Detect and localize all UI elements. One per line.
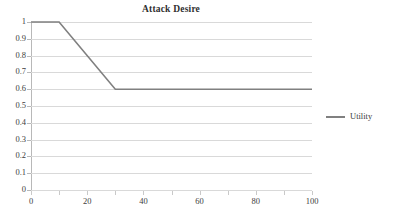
y-axis-tick-label-wrap: 0.5 <box>0 101 26 111</box>
y-axis-tick-label-wrap: 1 <box>0 17 26 27</box>
y-axis-tick-label: 0.1 <box>2 168 26 177</box>
x-axis-tick-label: 40 <box>128 196 158 206</box>
y-axis-tick-label-wrap: 0 <box>0 185 26 195</box>
x-axis-tick <box>31 191 32 195</box>
x-axis-tick-label: 80 <box>241 196 271 206</box>
x-axis-tick <box>87 191 88 195</box>
x-axis-tick-label: 60 <box>185 196 215 206</box>
x-axis-tick <box>59 191 60 195</box>
chart-container: Attack Desire 00.10.20.30.40.50.60.70.80… <box>0 0 401 223</box>
y-axis-tick-label: 1 <box>2 17 26 26</box>
y-axis-tick-label-wrap: 0.8 <box>0 51 26 61</box>
x-axis-tick-label: 100 <box>297 196 327 206</box>
y-axis-tick-label: 0.4 <box>2 118 26 127</box>
y-axis-tick-label: 0.5 <box>2 101 26 110</box>
legend-label-utility: Utility <box>350 111 372 122</box>
x-axis-tick <box>228 191 229 195</box>
y-axis-tick-label-wrap: 0.2 <box>0 151 26 161</box>
x-axis-tick <box>115 191 116 195</box>
y-axis-tick-label: 0.7 <box>2 67 26 76</box>
chart-title: Attack Desire <box>30 2 312 16</box>
plot-area <box>31 22 312 190</box>
y-axis-tick-label-wrap: 0.3 <box>0 135 26 145</box>
x-axis-tick <box>256 191 257 195</box>
x-axis-tick <box>143 191 144 195</box>
y-axis-tick-label: 0 <box>2 185 26 194</box>
y-axis-tick-label-wrap: 0.4 <box>0 118 26 128</box>
series-utility-line <box>31 22 312 89</box>
y-axis-tick-label-wrap: 0.6 <box>0 84 26 94</box>
x-axis-tick-label: 20 <box>72 196 102 206</box>
y-axis-tick-label: 0.2 <box>2 151 26 160</box>
x-axis-tick <box>312 191 313 195</box>
y-axis-tick-label: 0.6 <box>2 84 26 93</box>
x-axis-tick <box>172 191 173 195</box>
legend: Utility <box>326 111 372 122</box>
legend-swatch-utility <box>326 116 345 118</box>
y-axis-tick-label-wrap: 0.7 <box>0 67 26 77</box>
x-axis-tick-label: 0 <box>16 196 46 206</box>
x-axis-tick <box>284 191 285 195</box>
y-axis-tick-label: 0.8 <box>2 51 26 60</box>
y-axis-tick-label: 0.3 <box>2 135 26 144</box>
series-utility <box>31 22 312 190</box>
gridline-y <box>31 190 312 191</box>
y-axis-tick-label-wrap: 0.1 <box>0 168 26 178</box>
x-axis-tick <box>200 191 201 195</box>
y-axis-tick-label: 0.9 <box>2 34 26 43</box>
y-axis-tick-label-wrap: 0.9 <box>0 34 26 44</box>
